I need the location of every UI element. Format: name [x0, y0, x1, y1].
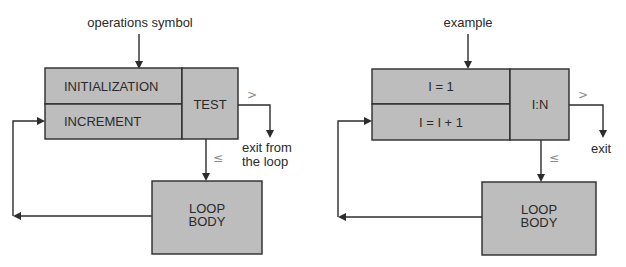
greater-than-symbol: >: [247, 88, 257, 102]
loop-diagrams: operations symbol INITIALIZATION INCREME…: [0, 0, 626, 267]
initialization-label: I = 1: [428, 79, 454, 94]
continue-arrow: [537, 140, 545, 182]
example-label: example: [443, 15, 492, 30]
exit-label: exit from: [242, 140, 292, 155]
diagram-general-form: operations symbol INITIALIZATION INCREME…: [13, 15, 292, 254]
initialization-label: INITIALIZATION: [64, 79, 158, 94]
exit-label-line2: the loop: [242, 154, 288, 169]
diagram-example: example I = 1 I = I + 1 I:N > exit ≤ LOO…: [338, 15, 612, 255]
test-label: TEST: [193, 97, 226, 112]
increment-label: INCREMENT: [64, 114, 141, 129]
entry-arrow: [464, 34, 472, 69]
continue-arrow: [202, 139, 210, 181]
greater-than-symbol: >: [578, 88, 588, 102]
less-equal-symbol: ≤: [213, 151, 223, 165]
operations-symbol-label: operations symbol: [87, 15, 193, 30]
increment-label: I = I + 1: [419, 115, 463, 130]
exit-arrow: [238, 105, 274, 138]
less-equal-symbol: ≤: [549, 151, 559, 165]
test-label: I:N: [532, 97, 549, 112]
entry-arrow: [135, 34, 143, 69]
loop-body-label-line2: BODY: [189, 214, 226, 229]
loop-body-label-line2: BODY: [521, 215, 558, 230]
exit-arrow: [569, 105, 607, 138]
exit-label: exit: [591, 141, 612, 156]
